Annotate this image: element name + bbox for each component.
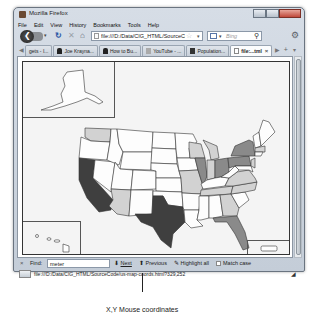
tab-label: YouTube - ...	[153, 48, 181, 54]
menu-bookmarks[interactable]: Bookmarks	[92, 21, 122, 30]
find-close-icon[interactable]: ×	[20, 260, 24, 266]
search-placeholder[interactable]: Bing	[226, 33, 237, 39]
status-url: file:///D:/Data/CIG_HTML/SourceCode/us-m…	[34, 271, 185, 277]
tab-4[interactable]: Population...	[186, 45, 229, 56]
navigation-toolbar: ❮ ▾ ↻ ✕ ⌂ file:///D:/Data/CIG_HTML/Sourc…	[17, 30, 301, 43]
tab-scroll-left-icon[interactable]: ◀	[17, 45, 25, 56]
status-bar: file:///D:/Data/CIG_HTML/SourceCode/us-m…	[17, 270, 301, 279]
maximize-button[interactable]	[266, 9, 279, 18]
menu-file[interactable]: File	[17, 21, 28, 30]
stop-icon[interactable]: ✕	[68, 31, 75, 41]
find-input[interactable]: meter	[47, 259, 110, 268]
tab-list-icon[interactable]: ▾	[290, 45, 298, 56]
tab-close-icon[interactable]: ×	[265, 48, 269, 54]
find-next-label: Next	[121, 260, 132, 266]
state-indiana	[207, 160, 215, 180]
status-bar-button[interactable]	[19, 270, 31, 278]
search-engine-icon[interactable]	[210, 33, 217, 39]
state-connecticut	[255, 152, 263, 156]
state-florida	[213, 216, 249, 250]
tab-label: file:...tml	[241, 48, 262, 54]
youtube-icon	[146, 48, 151, 54]
browser-window: Mozilla Firefox File Edit View History B…	[13, 7, 305, 272]
find-bar: × Find: meter ⬇ Next ⬆ Previous ✎ Highli…	[17, 259, 301, 269]
back-button[interactable]: ❮	[20, 30, 34, 43]
tab-label: gets - I...	[29, 48, 48, 54]
tab-5-active[interactable]: file:...tml×	[230, 45, 272, 56]
scrollbar-thumb[interactable]	[296, 59, 301, 255]
home-icon[interactable]: ⌂	[80, 31, 85, 41]
bookmark-star-icon[interactable]: ☆	[186, 32, 192, 40]
state-north-dakota	[152, 132, 176, 149]
tab-bar: ◀ gets - I... Joe Krayna... How to Bu...…	[17, 45, 301, 56]
find-label: Find:	[30, 260, 42, 266]
tab-2[interactable]: How to Bu...	[99, 45, 141, 56]
menu-bar: File Edit View History Bookmarks Tools H…	[17, 21, 160, 30]
tab-0[interactable]: gets - I...	[25, 45, 52, 56]
highlighter-icon: ✎	[174, 260, 179, 266]
match-case-label: Match case	[223, 260, 251, 266]
tab-label: How to Bu...	[110, 48, 137, 54]
state-arizona	[109, 189, 131, 216]
address-bar[interactable]: file:///D:/Data/CIG_HTML/SourceCo ☆ ▾	[91, 31, 203, 41]
history-dropdown-icon[interactable]: ▾	[44, 32, 47, 38]
menu-view[interactable]: View	[49, 21, 63, 30]
search-icon[interactable]: ⚲	[254, 32, 259, 40]
minimize-button[interactable]	[253, 9, 266, 18]
down-arrow-icon: ⬇	[114, 260, 119, 266]
state-montana	[117, 129, 153, 152]
population-icon	[190, 48, 195, 54]
window-controls	[253, 9, 301, 18]
figure-caption: X,Y Mouse coordinates	[106, 306, 178, 313]
resize-grip-icon[interactable]: ◢	[291, 270, 296, 277]
checkbox-icon[interactable]	[216, 261, 221, 266]
close-button[interactable]	[279, 9, 301, 18]
new-tab-button[interactable]: +	[281, 45, 290, 56]
tab-1[interactable]: Joe Krayna...	[53, 45, 97, 56]
state-maine	[259, 120, 275, 146]
tab-scroll-right-icon[interactable]: ▶	[273, 45, 281, 56]
state-arkansas	[182, 193, 201, 210]
callout-line	[142, 273, 143, 292]
state-south-dakota	[151, 148, 177, 164]
state-iowa	[177, 158, 198, 171]
up-arrow-icon: ⬆	[139, 260, 144, 266]
state-new-york	[231, 140, 255, 156]
match-case-checkbox[interactable]: Match case	[216, 260, 251, 266]
state-michigan	[203, 140, 219, 160]
state-new-mexico	[129, 190, 153, 216]
find-next-button[interactable]: ⬇ Next	[114, 260, 132, 266]
search-engine-dropdown-icon[interactable]: ▾	[219, 33, 222, 39]
person-icon	[57, 48, 62, 54]
addon-icon[interactable]: ⚙	[291, 30, 301, 41]
person-icon	[103, 48, 108, 54]
back-arrow-icon: ❮	[24, 31, 31, 40]
page-icon	[234, 48, 239, 54]
us-map[interactable]	[22, 61, 290, 255]
menu-help[interactable]: Help	[147, 21, 160, 30]
alaska-inset	[23, 62, 115, 118]
highlight-all-button[interactable]: ✎ Highlight all	[174, 260, 209, 266]
title-bar[interactable]: Mozilla Firefox	[14, 8, 304, 21]
find-previous-button[interactable]: ⬆ Previous	[139, 260, 167, 266]
reload-icon[interactable]: ↻	[55, 31, 62, 41]
url-dropdown-icon[interactable]: ▾	[197, 33, 200, 39]
menu-edit[interactable]: Edit	[33, 21, 44, 30]
hawaii-inset	[23, 221, 81, 254]
state-mississippi	[197, 196, 209, 220]
state-new-jersey	[251, 158, 255, 168]
tab-3[interactable]: YouTube - ...	[142, 45, 185, 56]
state-colorado	[131, 170, 156, 190]
menu-tools[interactable]: Tools	[127, 21, 142, 30]
url-text[interactable]: file:///D:/Data/CIG_HTML/SourceCo	[101, 33, 185, 39]
tab-label: Joe Krayna...	[64, 48, 93, 54]
highlight-all-label: Highlight all	[181, 260, 209, 266]
vertical-scrollbar[interactable]	[294, 56, 302, 258]
menu-history[interactable]: History	[68, 21, 87, 30]
search-box[interactable]: ▾ Bing ⚲	[207, 31, 262, 41]
page-content	[17, 56, 293, 258]
page-icon	[94, 33, 99, 39]
tab-label: Population...	[197, 48, 225, 54]
state-kansas	[156, 178, 182, 192]
find-previous-label: Previous	[146, 260, 167, 266]
